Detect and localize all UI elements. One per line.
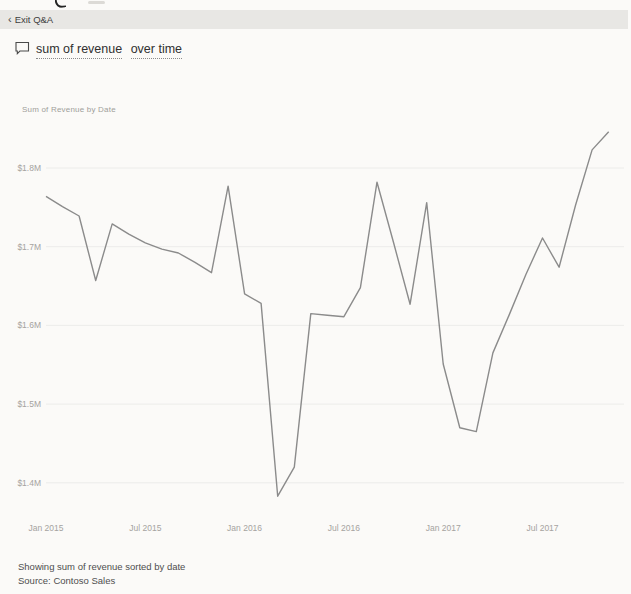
y-axis-tick-label: $1.4M: [17, 478, 41, 488]
y-axis-tick-label: $1.6M: [17, 320, 41, 330]
y-axis-tick-label: $1.5M: [17, 399, 41, 409]
qa-result-summary: Showing sum of revenue sorted by date: [18, 561, 185, 572]
x-axis-tick-label: Jul 2017: [526, 523, 558, 533]
data-source-label: Source: Contoso Sales: [18, 575, 115, 586]
revenue-line-series[interactable]: [46, 132, 609, 496]
x-axis-tick-label: Jul 2016: [328, 523, 360, 533]
y-axis-tick-label: $1.8M: [17, 163, 41, 173]
x-axis-tick-label: Jul 2015: [129, 523, 161, 533]
x-axis-tick-label: Jan 2016: [227, 523, 262, 533]
y-axis-tick-label: $1.7M: [17, 242, 41, 252]
x-axis-tick-label: Jan 2015: [29, 523, 64, 533]
revenue-line-chart[interactable]: $1.8M$1.7M$1.6M$1.5M$1.4MJan 2015Jul 201…: [0, 0, 631, 594]
x-axis-tick-label: Jan 2017: [426, 523, 461, 533]
